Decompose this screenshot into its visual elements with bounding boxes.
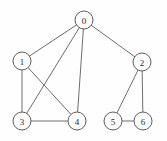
graph-node-label-4: 4	[75, 117, 80, 127]
edge-layer	[22, 25, 143, 121]
graph-figure: 0123456	[0, 0, 167, 141]
graph-node-label-5: 5	[111, 117, 116, 127]
graph-node-4[interactable]: 4	[68, 112, 86, 130]
graph-node-2[interactable]: 2	[133, 53, 151, 71]
graph-edge-0-1	[30, 25, 77, 56]
graph-node-5[interactable]: 5	[104, 112, 122, 130]
node-layer: 0123456	[13, 11, 152, 130]
graph-node-label-3: 3	[20, 117, 25, 127]
graph-node-3[interactable]: 3	[13, 112, 31, 130]
graph-node-label-2: 2	[140, 58, 145, 68]
graph-node-label-1: 1	[20, 57, 25, 67]
graph-node-label-6: 6	[141, 117, 146, 127]
graph-edge-2-6	[142, 71, 143, 112]
graph-node-0[interactable]: 0	[75, 11, 93, 29]
graph-edge-0-4	[78, 29, 84, 112]
graph-edge-1-4	[28, 68, 71, 115]
graph-node-6[interactable]: 6	[134, 112, 152, 130]
graph-node-label-0: 0	[82, 16, 87, 26]
graph-edge-2-5	[117, 70, 138, 113]
graph-node-1[interactable]: 1	[13, 52, 31, 70]
graph-edge-0-2	[91, 25, 134, 56]
graph-canvas: 0123456	[0, 0, 167, 141]
